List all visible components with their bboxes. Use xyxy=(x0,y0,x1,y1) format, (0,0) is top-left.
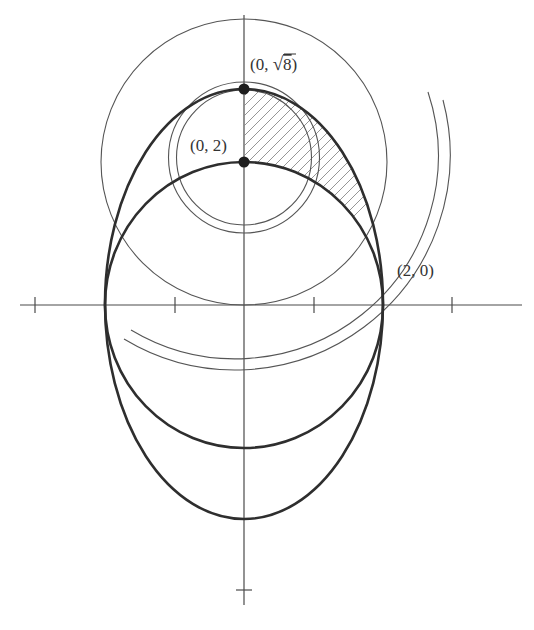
label-mid-point: (0, 2) xyxy=(190,136,227,155)
point-mid xyxy=(239,157,250,168)
label-right-point: (2, 0) xyxy=(397,261,434,280)
point-top xyxy=(239,84,250,95)
diagram-canvas: (0, √8) (0, 2) (2, 0) xyxy=(0,0,534,630)
arc-outer xyxy=(124,100,450,370)
diagram-svg: (0, √8) (0, 2) (2, 0) xyxy=(0,0,534,630)
arc-inner xyxy=(131,92,438,359)
label-top-point: (0, √8) xyxy=(250,53,297,74)
axes xyxy=(20,15,522,605)
